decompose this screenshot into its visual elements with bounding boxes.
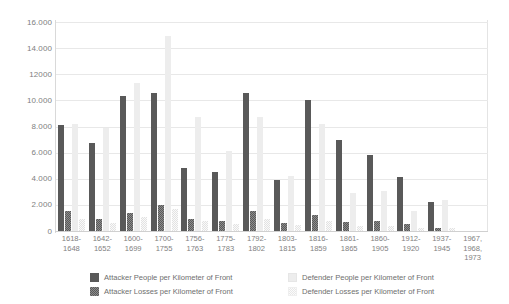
bar-attacker-losses[interactable] <box>404 224 410 231</box>
x-axis-category-label: 1792- 1802 <box>241 234 272 263</box>
bar-defender-losses[interactable] <box>357 226 363 231</box>
bar-defender-losses[interactable] <box>418 228 424 231</box>
x-axis-category-label: 1937- 1945 <box>426 234 457 263</box>
bar-group <box>303 22 334 231</box>
x-axis-category-label: 1861- 1865 <box>334 234 365 263</box>
bar-defender-losses[interactable] <box>141 217 147 231</box>
bar-defender-people[interactable] <box>411 211 417 231</box>
bar-group <box>118 22 149 231</box>
legend-swatch-icon <box>90 273 99 282</box>
bar-defender-people[interactable] <box>72 124 78 231</box>
bar-defender-losses[interactable] <box>172 209 178 231</box>
bar-attacker-losses[interactable] <box>435 228 441 231</box>
bar-defender-people[interactable] <box>381 191 387 231</box>
bar-attacker-people[interactable] <box>58 125 64 231</box>
legend-item[interactable]: Defender Losses per Kilometer of Front <box>288 284 480 298</box>
x-axis-category-label: 1816- 1859 <box>303 234 334 263</box>
bar-attacker-people[interactable] <box>151 93 157 231</box>
x-axis-category-label: 1803- 1815 <box>272 234 303 263</box>
chart-legend: Attacker People per Kilometer of FrontDe… <box>90 270 490 298</box>
x-axis-category-label: 1618- 1648 <box>56 234 87 263</box>
bar-group <box>457 22 488 231</box>
bar-attacker-people[interactable] <box>428 202 434 231</box>
bar-group <box>365 22 396 231</box>
legend-item[interactable]: Attacker Losses per Kilometer of Front <box>90 284 282 298</box>
legend-swatch-icon <box>288 273 297 282</box>
bar-attacker-losses[interactable] <box>312 215 318 231</box>
bar-attacker-people[interactable] <box>336 140 342 231</box>
y-axis-tick-label: 2.000 <box>4 200 52 209</box>
bar-defender-losses[interactable] <box>449 228 455 231</box>
legend-label: Attacker People per Kilometer of Front <box>104 273 232 282</box>
bar-attacker-people[interactable] <box>89 143 95 231</box>
bar-defender-people[interactable] <box>288 176 294 231</box>
bar-defender-losses[interactable] <box>295 225 301 231</box>
bar-attacker-losses[interactable] <box>65 211 71 231</box>
y-axis-tick-label: 4.000 <box>4 174 52 183</box>
bar-attacker-people[interactable] <box>305 100 311 231</box>
bar-attacker-losses[interactable] <box>219 221 225 231</box>
bar-attacker-people[interactable] <box>120 96 126 231</box>
bar-attacker-losses[interactable] <box>96 219 102 231</box>
bar-attacker-people[interactable] <box>274 180 280 231</box>
bar-defender-losses[interactable] <box>202 221 208 231</box>
bar-defender-people[interactable] <box>350 193 356 231</box>
x-axis-category-labels: 1618- 16481642- 16521600- 16991700- 1755… <box>56 234 488 263</box>
plot-area <box>56 22 488 231</box>
bar-defender-people[interactable] <box>442 200 448 231</box>
bar-defender-losses[interactable] <box>264 219 270 231</box>
legend-swatch-icon <box>90 287 99 296</box>
bar-group <box>334 22 365 231</box>
y-axis-tick-label: 0 <box>4 227 52 236</box>
bar-attacker-people[interactable] <box>367 155 373 231</box>
y-axis-tick-labels: 16.00014.0001200010.0008.0006.0004.0002.… <box>0 0 52 304</box>
bar-group <box>87 22 118 231</box>
bar-defender-losses[interactable] <box>233 224 239 231</box>
bar-defender-losses[interactable] <box>79 219 85 231</box>
bar-attacker-losses[interactable] <box>374 221 380 231</box>
x-axis-category-label: 1600- 1699 <box>118 234 149 263</box>
x-axis-category-label: 1642- 1652 <box>87 234 118 263</box>
bar-attacker-people[interactable] <box>181 168 187 231</box>
bar-defender-people[interactable] <box>257 117 263 231</box>
bar-attacker-losses[interactable] <box>250 211 256 231</box>
bar-defender-losses[interactable] <box>110 223 116 231</box>
y-axis-tick-label: 10.000 <box>4 96 52 105</box>
legend-label: Attacker Losses per Kilometer of Front <box>104 287 233 296</box>
bar-attacker-losses[interactable] <box>188 219 194 231</box>
bar-attacker-losses[interactable] <box>127 213 133 231</box>
y-axis-tick-label: 12000 <box>4 70 52 79</box>
bar-attacker-losses[interactable] <box>158 205 164 231</box>
bar-defender-people[interactable] <box>165 36 171 231</box>
bar-defender-people[interactable] <box>226 151 232 231</box>
bar-attacker-losses[interactable] <box>281 223 287 231</box>
legend-label: Defender People per Kilometer of Front <box>302 273 434 282</box>
x-axis-line <box>55 231 488 232</box>
bar-groups <box>56 22 488 231</box>
x-axis-category-label: 1912- 1920 <box>395 234 426 263</box>
bar-group <box>179 22 210 231</box>
chart-container: 16.00014.0001200010.0008.0006.0004.0002.… <box>0 0 509 304</box>
y-axis-tick-label: 16.000 <box>4 18 52 27</box>
bar-attacker-people[interactable] <box>212 172 218 231</box>
x-axis-category-label: 1700- 1755 <box>149 234 180 263</box>
bar-defender-people[interactable] <box>319 124 325 231</box>
legend-swatch-icon <box>288 287 297 296</box>
bar-defender-people[interactable] <box>134 83 140 231</box>
bar-group <box>395 22 426 231</box>
bar-attacker-people[interactable] <box>243 93 249 231</box>
bar-attacker-losses[interactable] <box>343 222 349 231</box>
legend-item[interactable]: Attacker People per Kilometer of Front <box>90 270 282 284</box>
legend-item[interactable]: Defender People per Kilometer of Front <box>288 270 480 284</box>
bar-defender-people[interactable] <box>103 128 109 231</box>
x-axis-category-label: 1756- 1763 <box>179 234 210 263</box>
y-axis-tick-label: 14.000 <box>4 44 52 53</box>
bar-group <box>210 22 241 231</box>
bar-attacker-people[interactable] <box>397 177 403 231</box>
bar-defender-losses[interactable] <box>326 221 332 231</box>
bar-defender-losses[interactable] <box>388 226 394 231</box>
x-axis-category-label: 1860- 1905 <box>365 234 396 263</box>
x-axis-category-label: 1967, 1968, 1973 <box>457 234 488 263</box>
bar-defender-people[interactable] <box>195 117 201 231</box>
bar-group <box>56 22 87 231</box>
